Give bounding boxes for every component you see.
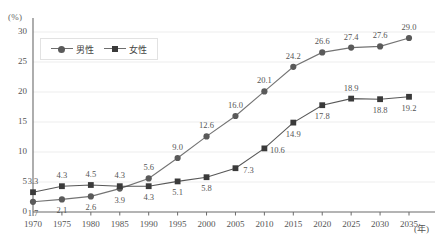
point-label-female-1995: 5.1 [172,187,183,197]
point-label-male-2005: 16.0 [228,100,243,110]
point-label-male-2015: 24.2 [286,51,301,61]
point-label-female-2030: 18.8 [373,105,388,115]
point-label-male-1995: 9.0 [172,142,183,152]
x-axis-tick-1980: 1980 [75,219,107,229]
point-label-female-1985: 4.3 [114,170,125,180]
x-axis-tick-1975: 1975 [46,219,78,229]
x-axis-tick-2030: 2030 [364,219,396,229]
chart-container: (%) 男性 女性 (年) 051015202530 1970197519801… [0,0,437,240]
point-label-female-1980: 4.5 [86,169,97,179]
chart-plot-area [0,0,437,240]
point-label-male-2030: 27.6 [373,30,388,40]
point-label-female-1975: 4.3 [57,170,68,180]
x-axis-tick-2000: 2000 [191,219,223,229]
point-label-female-2020: 17.8 [315,111,330,121]
point-label-male-1985: 3.9 [114,195,125,205]
point-label-male-2000: 12.6 [199,120,214,130]
square-marker-icon [104,44,126,54]
y-axis-tick-30: 30 [5,26,27,36]
point-label-male-2025: 27.4 [344,32,359,42]
legend-label-female: 女性 [129,43,147,56]
point-label-female-1970: 3.3 [28,176,39,186]
point-label-female-1990: 4.3 [143,192,154,202]
x-axis-tick-2005: 2005 [219,219,251,229]
point-label-female-2025: 18.9 [344,83,359,93]
point-label-male-1980: 2.6 [86,202,97,212]
y-axis-tick-10: 10 [5,146,27,156]
x-axis-tick-1970: 1970 [17,219,49,229]
x-axis-tick-2025: 2025 [335,219,367,229]
point-label-female-2010: 10.6 [270,145,285,155]
legend-label-male: 男性 [76,43,94,56]
point-label-male-2020: 26.6 [315,36,330,46]
point-label-male-1975: 2.1 [57,205,68,215]
y-axis-tick-25: 25 [5,56,27,66]
circle-marker-icon [51,44,73,54]
y-axis-tick-15: 15 [5,116,27,126]
point-label-male-1970: 1.7 [28,208,39,218]
legend-item-male[interactable]: 男性 [51,43,94,56]
x-axis-tick-2035: 2035 [393,219,425,229]
y-axis-tick-0: 0 [5,206,27,216]
x-axis-tick-2020: 2020 [306,219,338,229]
point-label-female-2035: 19.2 [402,103,417,113]
x-axis-tick-2015: 2015 [277,219,309,229]
point-label-female-2005: 7.3 [243,165,254,175]
x-axis-tick-2010: 2010 [248,219,280,229]
y-axis-tick-5: 5 [5,176,27,186]
point-label-female-2000: 5.8 [201,183,212,193]
x-axis-tick-1985: 1985 [104,219,136,229]
point-label-male-2035: 29.0 [402,22,417,32]
point-label-female-2015: 14.9 [286,129,301,139]
chart-legend: 男性 女性 [40,38,158,60]
point-label-male-2010: 20.1 [257,75,272,85]
y-axis-tick-20: 20 [5,86,27,96]
point-label-male-1990: 5.6 [143,162,154,172]
x-axis-tick-1990: 1990 [133,219,165,229]
legend-item-female[interactable]: 女性 [104,43,147,56]
x-axis-tick-1995: 1995 [162,219,194,229]
